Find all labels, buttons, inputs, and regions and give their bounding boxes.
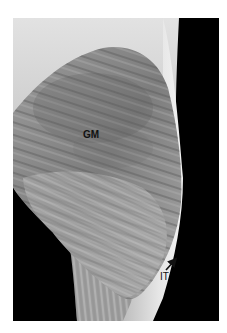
arrow-icon — [13, 18, 219, 321]
anatomical-photo: GM IT — [13, 18, 219, 321]
